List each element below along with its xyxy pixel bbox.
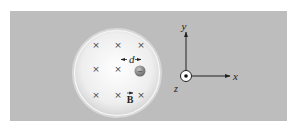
field-label: B <box>127 94 134 105</box>
z-axis-dot-icon <box>184 74 188 78</box>
field-into-page-mark: × <box>114 90 122 100</box>
spacing-label: d <box>129 53 135 65</box>
field-vector-label: B <box>127 93 134 105</box>
charged-particle: − <box>135 66 146 77</box>
field-into-page-mark: × <box>114 64 122 74</box>
field-into-page-mark: × <box>137 40 145 50</box>
field-into-page-mark: × <box>92 90 100 100</box>
particle-charge-sign: − <box>137 68 143 76</box>
field-into-page-mark: × <box>137 90 145 100</box>
field-into-page-mark: × <box>114 40 122 50</box>
z-axis-label: z <box>173 83 178 94</box>
field-into-page-mark: × <box>92 40 100 50</box>
magnetic-field-diagram: ×××××××× d − B y x z <box>0 0 297 128</box>
x-axis-label: x <box>232 70 238 82</box>
y-axis-label: y <box>181 20 187 32</box>
field-into-page-mark: × <box>92 64 100 74</box>
